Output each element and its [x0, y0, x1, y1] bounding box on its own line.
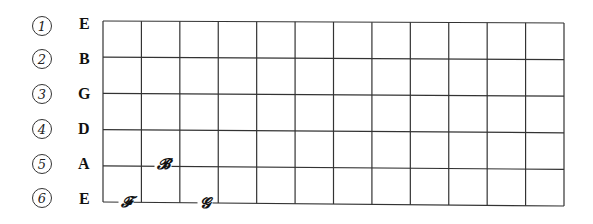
note-f-string6-fret1: 𝓕 — [119, 195, 134, 210]
string-number-6: 6 — [32, 188, 52, 208]
string-name-3: G — [78, 85, 90, 103]
string-number-5: 5 — [32, 154, 52, 174]
note-g-string6-fret3: 𝓖 — [198, 196, 213, 211]
string-name-4: D — [78, 120, 90, 138]
string-number-text: 5 — [38, 157, 46, 172]
fretboard-diagram: 1 2 3 4 5 6 E B G D A E 𝓕 𝓖 𝓑 — [0, 0, 593, 224]
string-number-3: 3 — [32, 84, 52, 104]
string-number-text: 1 — [38, 19, 46, 34]
string-number-text: 4 — [38, 122, 46, 137]
string-name-2: B — [79, 50, 90, 68]
note-b-string5-fret2: 𝓑 — [155, 157, 172, 172]
string-number-text: 2 — [38, 52, 46, 67]
string-number-text: 6 — [38, 191, 46, 206]
string-name-5: A — [78, 155, 90, 173]
string-number-4: 4 — [32, 119, 52, 139]
string-number-2: 2 — [32, 49, 52, 69]
string-name-6: E — [79, 190, 90, 208]
string-number-1: 1 — [32, 16, 52, 36]
string-name-1: E — [79, 15, 90, 33]
string-number-text: 3 — [38, 87, 46, 102]
